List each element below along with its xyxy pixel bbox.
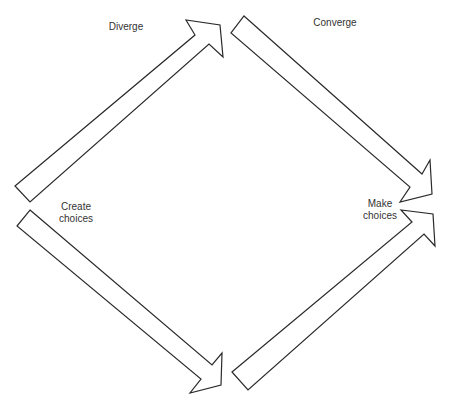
diverge-label: Diverge	[96, 21, 156, 33]
make-choices-label: Make choices	[352, 198, 408, 222]
create-choices-label: Create choices	[48, 201, 104, 225]
lower-left-arrow	[17, 210, 222, 393]
converge-arrow	[231, 16, 432, 202]
converge-label: Converge	[300, 17, 370, 29]
lower-right-arrow	[232, 210, 435, 390]
diverge-arrow	[15, 20, 223, 202]
